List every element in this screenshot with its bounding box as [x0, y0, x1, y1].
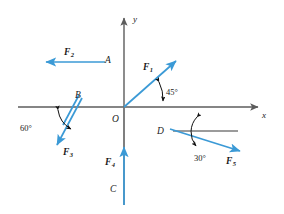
force-label-F1: F1 — [142, 62, 153, 73]
force-label-F4: F4 — [104, 157, 116, 168]
force-vector-F5 — [170, 129, 240, 151]
angle-label-30: 30° — [194, 153, 206, 163]
force-label-F3: F3 — [62, 147, 74, 158]
point-label-B: B — [75, 90, 81, 100]
force-vector-F3 — [57, 98, 82, 145]
angle-label-45: 45° — [166, 87, 178, 97]
point-label-A: A — [104, 55, 111, 65]
angle-label-60: 60° — [20, 123, 32, 133]
origin-label: O — [112, 114, 119, 124]
guide-lines-group — [63, 95, 238, 147]
point-label-C: C — [110, 184, 117, 194]
force-label-F5-subscript: 5 — [233, 160, 237, 167]
angle-arc-45 — [159, 82, 163, 101]
x-axis-label: x — [261, 110, 266, 120]
force-label-F3-subscript: 3 — [69, 151, 74, 158]
force-label-F5: F5 — [225, 156, 237, 167]
force-diagram-container: y x O A B C D F1 F2 F3 F4 — [0, 0, 284, 214]
force-label-F1-subscript: 1 — [150, 66, 153, 73]
force-label-F2-subscript: 2 — [70, 51, 75, 58]
angle-labels-group: 45° 60° 30° — [20, 87, 206, 163]
y-axis-label: y — [132, 14, 137, 24]
force-vectors-group — [46, 61, 240, 205]
point-labels-group: A B C D — [75, 55, 164, 194]
force-label-F2: F2 — [63, 47, 75, 58]
axes-group — [18, 18, 258, 205]
point-label-D: D — [156, 126, 164, 136]
force-label-F4-subscript: 4 — [111, 161, 116, 168]
force-diagram-canvas: y x O A B C D F1 F2 F3 F4 — [0, 0, 284, 214]
